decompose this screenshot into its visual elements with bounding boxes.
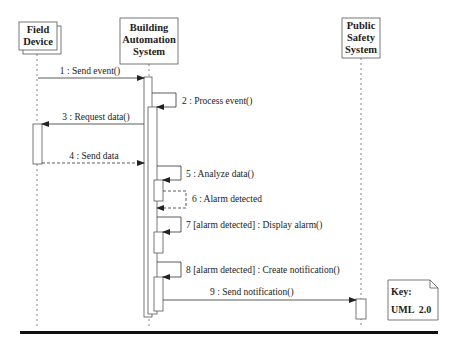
message-4: 4 : Send data: [42, 151, 144, 163]
activation-pss: [356, 299, 366, 319]
message-1: 1 : Send event(): [38, 66, 144, 78]
participant-field-device: Field Device: [19, 22, 61, 54]
activation-field-device: [33, 124, 42, 164]
participant-label: Safety: [347, 32, 376, 43]
message-7: 7 [alarm detected] : Display alarm(): [157, 217, 322, 232]
message-9: 9 : Send notification(): [163, 287, 356, 300]
svg-text:1 : Send event(): 1 : Send event(): [60, 66, 120, 77]
message-5: 5 : Analyze data(): [157, 166, 254, 180]
activation-bas-display: [154, 232, 163, 253]
participant-label: Device: [23, 36, 53, 47]
svg-text:9 : Send notification(): 9 : Send notification(): [210, 287, 294, 298]
svg-text:3 : Request data(): 3 : Request data(): [62, 112, 129, 123]
participant-label: System: [133, 46, 165, 57]
activation-bas-analyze: [154, 180, 163, 201]
message-8: 8 [alarm detected] : Create notification…: [157, 262, 340, 277]
svg-text:4 : Send data: 4 : Send data: [69, 151, 119, 161]
key-value: UML 2.0: [391, 304, 431, 315]
svg-text:2 : Process event(): 2 : Process event(): [182, 96, 252, 107]
participant-building-automation-system: Building Automation System: [120, 18, 178, 64]
participant-label: System: [345, 44, 377, 55]
activation-bas-notify: [154, 277, 163, 311]
sequence-diagram: Field Device Building Automation System …: [0, 0, 453, 353]
key-note: Key: UML 2.0: [388, 280, 438, 320]
svg-text:7 [alarm detected] : Display a: 7 [alarm detected] : Display alarm(): [186, 220, 322, 231]
svg-text:6 : Alarm detected: 6 : Alarm detected: [192, 194, 262, 204]
bottom-rule: [20, 331, 438, 334]
message-3: 3 : Request data(): [42, 112, 144, 124]
participant-public-safety-system: Public Safety System: [342, 18, 380, 58]
participant-label: Building: [130, 22, 169, 33]
svg-text:8 [alarm detected] : Create no: 8 [alarm detected] : Create notification…: [186, 265, 340, 276]
participant-label: Field: [27, 24, 50, 35]
message-6: 6 : Alarm detected: [157, 191, 262, 208]
participant-label: Automation: [122, 34, 176, 45]
key-label: Key:: [391, 286, 412, 297]
svg-text:5 : Analyze data(): 5 : Analyze data(): [186, 169, 254, 180]
participant-label: Public: [347, 20, 376, 31]
message-2: 2 : Process event(): [152, 93, 252, 107]
